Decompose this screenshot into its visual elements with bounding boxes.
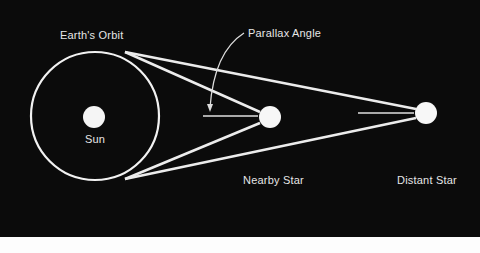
nearby-star-icon (259, 106, 281, 128)
sightline-top-distant (125, 52, 416, 109)
page-margin (0, 237, 480, 253)
distant-star-label: Distant Star (397, 174, 457, 186)
parallax-diagram: Earth's Orbit Parallax Angle Sun Nearby … (0, 0, 480, 237)
nearby-star-label: Nearby Star (243, 174, 304, 186)
sun-label: Sun (85, 133, 105, 145)
sightline-top-nearby (125, 52, 260, 112)
earths-orbit-label: Earth's Orbit (60, 29, 123, 41)
sun-icon (83, 106, 105, 128)
sightline-bottom-nearby (125, 123, 260, 179)
arrowhead-icon (207, 104, 213, 112)
distant-star-icon (415, 102, 437, 124)
parallax-angle-label: Parallax Angle (248, 27, 321, 39)
